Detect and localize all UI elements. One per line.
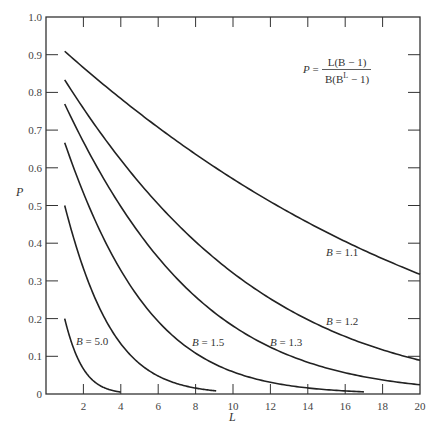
curve-label: B = 5.0 [76,335,109,347]
p-vs-l-chart: 246810121416182000.10.20.30.40.50.60.70.… [0,0,441,438]
curve-label: B = 1.2 [326,315,358,327]
y-tick-label: 0 [37,388,43,400]
formula-denominator: B(BL − 1) [325,71,369,86]
curve-label: B = 1.5 [192,336,225,348]
curve-label: B = 1.3 [270,336,303,348]
y-tick-label: 0.8 [28,86,42,98]
x-tick-label: 6 [155,400,161,412]
x-tick-label: 4 [118,400,124,412]
curve-2 [65,206,216,391]
curve-1-5 [65,143,364,392]
curve-1-2 [65,80,420,361]
x-tick-label: 14 [302,400,314,412]
curve-label: B = 1.1 [326,246,358,258]
curve-5 [65,319,121,392]
y-tick-label: 0.5 [28,200,42,212]
formula: P = L(B − 1) B(BL − 1) [302,56,371,86]
y-tick-label: 0.9 [28,49,42,61]
y-tick-label: 0.2 [28,313,42,325]
y-tick-label: 0.3 [28,275,42,287]
curves [65,51,420,392]
y-tick-label: 1.0 [28,11,42,23]
y-tick-label: 0.7 [28,124,42,136]
x-tick-label: 12 [265,400,276,412]
y-tick-label: 0.1 [28,350,42,362]
x-tick-label: 2 [81,400,87,412]
y-axis-title: P [15,185,24,199]
x-tick-label: 16 [340,400,352,412]
formula-numerator: L(B − 1) [328,56,367,69]
formula-lhs: P = [302,63,319,75]
x-axis-title: L [228,410,236,424]
x-tick-label: 18 [377,400,389,412]
curve-1-3 [65,104,420,385]
x-tick-label: 8 [193,400,199,412]
y-tick-label: 0.6 [28,162,42,174]
x-tick-label: 20 [415,400,427,412]
y-tick-label: 0.4 [28,237,42,249]
